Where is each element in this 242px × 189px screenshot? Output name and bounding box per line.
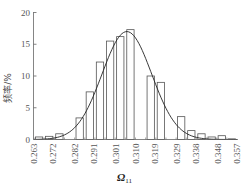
y-tick-label: 20 <box>21 8 31 18</box>
x-axis-title: Ω11 <box>117 171 132 185</box>
x-tick-label: 0.301 <box>111 144 121 164</box>
y-axis-title: 频率/% <box>2 73 13 103</box>
y-tick-label: 0 <box>26 135 31 145</box>
x-tick-label: 0.310 <box>131 143 141 164</box>
histogram-bar <box>178 117 185 140</box>
x-tick-label: 0.272 <box>48 144 58 164</box>
histogram-bars <box>35 30 235 140</box>
histogram-bar <box>218 136 225 140</box>
histogram-chart: 05101520 0.2630.2720.2820.2910.3010.3100… <box>0 0 242 189</box>
x-tick-label: 0.263 <box>29 143 39 164</box>
x-tick-label: 0.282 <box>70 144 80 164</box>
histogram-bar <box>117 37 124 140</box>
y-tick-label: 5 <box>26 103 31 113</box>
x-tick-label: 0.348 <box>213 143 223 164</box>
x-tick-label: 0.319 <box>150 143 160 164</box>
x-ticks: 0.2630.2720.2820.2910.3010.3100.3190.329… <box>29 138 242 164</box>
y-tick-label: 10 <box>21 71 31 81</box>
histogram-bar <box>127 30 134 140</box>
x-tick-label: 0.338 <box>191 143 201 164</box>
x-tick-label: 0.291 <box>89 144 99 164</box>
histogram-bar <box>147 76 154 140</box>
y-ticks: 05101520 <box>21 8 37 145</box>
normal-fit-curve <box>34 32 237 140</box>
x-tick-label: 0.357 <box>232 143 242 164</box>
histogram-bar <box>106 41 113 139</box>
x-tick-label: 0.329 <box>172 143 182 164</box>
y-tick-label: 15 <box>21 39 31 49</box>
